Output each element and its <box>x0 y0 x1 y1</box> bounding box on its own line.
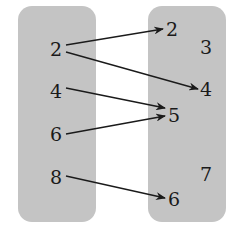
mapping-diagram: 2468 234576 <box>0 0 229 230</box>
range-element: 2 <box>166 20 178 39</box>
domain-element: 8 <box>50 168 62 187</box>
arrow <box>66 52 198 89</box>
arrow <box>66 29 163 45</box>
range-element: 6 <box>168 190 180 209</box>
arrow <box>66 88 165 108</box>
arrow <box>66 116 165 134</box>
range-element: 3 <box>200 38 212 57</box>
mapping-arrows <box>0 0 229 230</box>
range-element: 5 <box>168 106 180 125</box>
domain-element: 4 <box>50 82 62 101</box>
range-element: 4 <box>200 80 212 99</box>
domain-element: 2 <box>50 40 62 59</box>
arrow <box>66 176 165 198</box>
domain-element: 6 <box>50 125 62 144</box>
range-element: 7 <box>200 165 212 184</box>
